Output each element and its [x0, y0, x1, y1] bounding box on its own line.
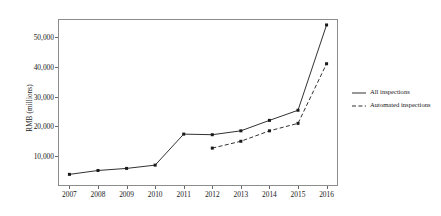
y-tick-label: 40,000 — [34, 62, 54, 71]
x-tick-mark — [98, 186, 99, 189]
data-point-marker — [211, 133, 214, 136]
data-point-marker — [125, 167, 128, 170]
solid-line-icon — [352, 89, 366, 97]
data-point-marker — [239, 129, 242, 132]
line-chart: RMB (millions) 10,00020,00030,00040,0005… — [0, 0, 441, 216]
x-tick-mark — [327, 186, 328, 189]
x-tick-label: 2016 — [319, 190, 334, 199]
legend-label: Automated inspections — [370, 102, 431, 109]
data-point-marker — [297, 109, 300, 112]
data-point-marker — [154, 164, 157, 167]
data-point-marker — [325, 62, 328, 65]
x-tick-mark — [155, 186, 156, 189]
chart-legend: All inspectionsAutomated inspections — [352, 86, 438, 112]
legend-label: All inspections — [370, 89, 410, 96]
x-tick-mark — [184, 186, 185, 189]
y-tick-label: 50,000 — [34, 32, 54, 41]
x-tick-mark — [127, 186, 128, 189]
x-tick-label: 2014 — [262, 190, 277, 199]
plot-series-layer — [58, 19, 338, 186]
y-tick-label: 30,000 — [34, 92, 54, 101]
legend-item-1[interactable]: All inspections — [352, 86, 438, 99]
x-tick-label: 2008 — [91, 190, 106, 199]
data-point-marker — [97, 169, 100, 172]
y-tick-label: 10,000 — [34, 152, 54, 161]
data-point-marker — [239, 140, 242, 143]
data-point-marker — [182, 133, 185, 136]
data-point-marker — [68, 173, 71, 176]
data-point-marker — [268, 129, 271, 132]
x-tick-label: 2009 — [119, 190, 134, 199]
x-tick-label: 2007 — [62, 190, 77, 199]
y-tick-label: 20,000 — [34, 122, 54, 131]
x-tick-mark — [69, 186, 70, 189]
x-tick-label: 2010 — [148, 190, 163, 199]
x-tick-mark — [298, 186, 299, 189]
legend-item-2[interactable]: Automated inspections — [352, 99, 438, 112]
data-point-marker — [211, 147, 214, 150]
x-tick-label: 2012 — [205, 190, 220, 199]
series-line-1 — [69, 25, 326, 174]
x-tick-label: 2015 — [291, 190, 306, 199]
y-axis-ticks: 10,00020,00030,00040,00050,000 — [20, 0, 54, 216]
x-tick-mark — [269, 186, 270, 189]
data-point-marker — [325, 23, 328, 26]
x-tick-label: 2013 — [233, 190, 248, 199]
x-tick-label: 2011 — [176, 190, 191, 199]
x-tick-mark — [241, 186, 242, 189]
dashed-line-icon — [352, 102, 366, 110]
x-tick-mark — [212, 186, 213, 189]
data-point-marker — [297, 122, 300, 125]
data-point-marker — [268, 119, 271, 122]
